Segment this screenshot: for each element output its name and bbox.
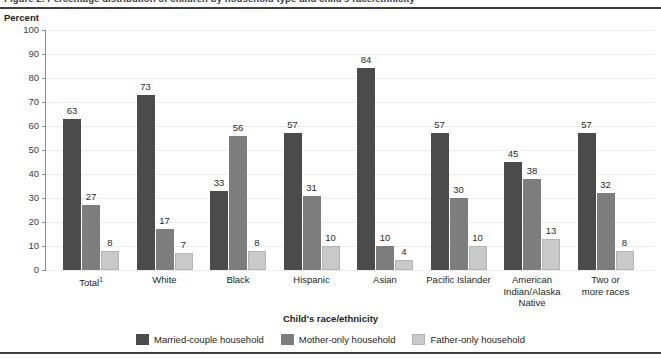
- y-axis-tick-mark-90: [42, 54, 46, 55]
- y-axis-tick-mark-70: [42, 102, 46, 103]
- chart-legend: Married-couple household Mother-only hou…: [0, 334, 661, 345]
- bar[interactable]: [101, 251, 119, 270]
- y-axis-tick-mark-10: [42, 246, 46, 247]
- y-axis-tick-90: 90: [5, 48, 39, 59]
- bar-group: 573010: [431, 30, 487, 270]
- bar[interactable]: [578, 133, 596, 270]
- bar-group: 63278: [63, 30, 119, 270]
- y-axis-tick-mark-100: [42, 30, 46, 31]
- legend-item-married[interactable]: Married-couple household: [136, 334, 264, 345]
- y-axis-tick-30: 30: [5, 192, 39, 203]
- bar-value-label: 10: [318, 232, 344, 243]
- figure-title: Figure 2. Percentage distribution of chi…: [4, 0, 415, 4]
- bar[interactable]: [542, 239, 560, 270]
- bar[interactable]: [248, 251, 266, 270]
- bar[interactable]: [229, 136, 247, 270]
- bar-value-label: 27: [78, 191, 104, 202]
- bar-value-label: 17: [152, 215, 178, 226]
- footer-divider: [0, 352, 661, 354]
- bar-group: 84104: [357, 30, 413, 270]
- bar[interactable]: [284, 133, 302, 270]
- y-axis-tick-20: 20: [5, 216, 39, 227]
- bar-value-label: 8: [97, 237, 123, 248]
- bar[interactable]: [322, 246, 340, 270]
- bar-value-label: 30: [446, 184, 472, 195]
- bar-group: 573110: [284, 30, 340, 270]
- bar-value-label: 10: [465, 232, 491, 243]
- bar-value-label: 13: [538, 225, 564, 236]
- gridline-0: [45, 270, 655, 271]
- bar-group: 33568: [210, 30, 266, 270]
- bar-value-label: 73: [133, 81, 159, 92]
- y-axis-tick-80: 80: [5, 72, 39, 83]
- bar[interactable]: [431, 133, 449, 270]
- bar-value-label: 38: [519, 165, 545, 176]
- bar-group: 57328: [578, 30, 634, 270]
- x-axis-category-label: Two ormore races: [546, 274, 661, 297]
- bar-value-label: 57: [574, 119, 600, 130]
- bar[interactable]: [597, 193, 615, 270]
- title-divider: [0, 7, 661, 9]
- y-axis-tick-mark-60: [42, 126, 46, 127]
- y-axis-tick-mark-20: [42, 222, 46, 223]
- y-axis-tick-mark-0: [42, 270, 46, 271]
- bar[interactable]: [395, 260, 413, 270]
- bar-value-label: 84: [353, 54, 379, 65]
- y-axis-tick-60: 60: [5, 120, 39, 131]
- bar[interactable]: [504, 162, 522, 270]
- bar[interactable]: [616, 251, 634, 270]
- bar-value-label: 8: [612, 237, 638, 248]
- bar-group: 73177: [137, 30, 193, 270]
- y-axis-tick-mark-80: [42, 78, 46, 79]
- bar-value-label: 56: [225, 122, 251, 133]
- plot-area: 1009080706050403020100632787317733568573…: [45, 30, 655, 270]
- y-axis-tick-70: 70: [5, 96, 39, 107]
- bar-value-label: 7: [171, 239, 197, 250]
- bar-value-label: 10: [372, 232, 398, 243]
- bar-value-label: 57: [280, 119, 306, 130]
- bar-value-label: 31: [299, 182, 325, 193]
- bar[interactable]: [210, 191, 228, 270]
- legend-swatch-married: [136, 334, 149, 345]
- legend-item-father[interactable]: Father-only household: [412, 334, 525, 345]
- bar[interactable]: [137, 95, 155, 270]
- bar-value-label: 32: [593, 179, 619, 190]
- y-axis-tick-10: 10: [5, 240, 39, 251]
- y-axis-tick-40: 40: [5, 168, 39, 179]
- bar[interactable]: [469, 246, 487, 270]
- bar-group: 453813: [504, 30, 560, 270]
- legend-label-father: Father-only household: [430, 334, 525, 345]
- legend-label-mother: Mother-only household: [299, 334, 396, 345]
- x-axis-title: Child's race/ethnicity: [0, 313, 661, 324]
- y-axis-unit-label: Percent: [4, 12, 39, 23]
- bar-value-label: 45: [500, 148, 526, 159]
- legend-swatch-father: [412, 334, 425, 345]
- bar-value-label: 8: [244, 237, 270, 248]
- y-axis-tick-50: 50: [5, 144, 39, 155]
- bar-value-label: 63: [59, 105, 85, 116]
- y-axis-tick-mark-50: [42, 150, 46, 151]
- bar-value-label: 4: [391, 246, 417, 257]
- y-axis-tick-100: 100: [5, 24, 39, 35]
- y-axis-tick-mark-30: [42, 198, 46, 199]
- legend-label-married: Married-couple household: [154, 334, 264, 345]
- bar-value-label: 57: [427, 119, 453, 130]
- bar[interactable]: [175, 253, 193, 270]
- legend-swatch-mother: [281, 334, 294, 345]
- legend-item-mother[interactable]: Mother-only household: [281, 334, 396, 345]
- y-axis-tick-mark-40: [42, 174, 46, 175]
